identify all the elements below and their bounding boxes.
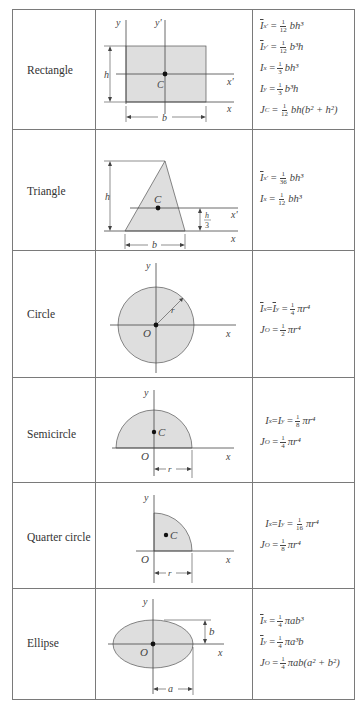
radius-label: r xyxy=(171,305,175,315)
formula: Ix = Iy =116πr⁴ xyxy=(260,514,319,535)
semi-minor-label: b xyxy=(209,625,215,637)
centroid-label: C xyxy=(154,193,162,205)
formula: JO =12πr⁴ xyxy=(260,320,310,341)
formula: Ix =14πab³ xyxy=(260,611,340,632)
formula: Iy' =112b³h xyxy=(260,37,338,58)
formula: Ix = Iy =18πr⁴ xyxy=(260,411,315,432)
height-label: h xyxy=(104,69,109,80)
h-third-num: h xyxy=(205,211,209,220)
y-prime-axis-label: y' xyxy=(154,17,162,28)
origin-label: O xyxy=(141,450,149,462)
x-axis-label: x xyxy=(225,554,231,565)
formula: JC =112bh(b² + h²) xyxy=(260,100,338,121)
moments-of-inertia-table: Rectangle y y' h C xyxy=(12,9,355,700)
formula: Iy =13b³h xyxy=(260,79,338,100)
radius-label: r xyxy=(168,568,172,578)
shape-name: Ellipse xyxy=(27,637,59,649)
x-axis-label: x xyxy=(226,103,232,114)
ellipse-diagram: y b O x a xyxy=(96,589,253,700)
y-axis-label: y xyxy=(115,17,121,28)
x-prime-axis-label: x' xyxy=(226,76,234,87)
origin-label: O xyxy=(140,646,148,658)
formula-list: Ix = Iy =18πr⁴ JO =14πr⁴ xyxy=(260,411,315,453)
shape-name: Semicircle xyxy=(27,428,76,440)
formula: JO =14πab(a² + b²) xyxy=(260,653,340,674)
y-axis-label: y xyxy=(145,260,151,271)
semicircle-diagram: y C O x r xyxy=(96,378,253,482)
formula-list: Ix' =136bh³ Ix =112bh³ xyxy=(260,168,303,210)
y-axis-label: y xyxy=(143,387,149,398)
quarter-circle-diagram: y C O x r xyxy=(96,483,253,588)
formula-list: Ix = Iy =116πr⁴ JO =18πr⁴ xyxy=(260,514,319,556)
shape-name: Rectangle xyxy=(27,64,73,76)
formula: Ix =112bh³ xyxy=(260,189,303,210)
formula: JO =18πr⁴ xyxy=(260,535,319,556)
formula: Ix' =136bh³ xyxy=(260,168,303,189)
formula: JO =14πr⁴ xyxy=(260,432,315,453)
y-axis-label: y xyxy=(142,596,148,607)
base-label: b xyxy=(162,112,167,123)
table-row-semicircle: Semicircle y C O x r Ix = Iy =18πr⁴ JO =… xyxy=(13,378,354,482)
centroid-label: C xyxy=(157,79,164,90)
circle-diagram: y r O x xyxy=(96,251,253,377)
triangle-diagram: h C h 3 x' x b xyxy=(96,130,253,250)
semi-major-label: a xyxy=(168,683,173,694)
shape-name: Quarter circle xyxy=(27,531,91,543)
x-axis-label: x xyxy=(225,328,231,339)
formula-list: Ix' =112bh³ Iy' =112b³h Ix =13bh³ Iy =13… xyxy=(260,16,338,121)
table-row-ellipse: Ellipse y b O x a Ix =14πa xyxy=(13,589,354,700)
centroid-label: C xyxy=(170,529,178,541)
radius-label: r xyxy=(168,464,172,474)
shape-name: Triangle xyxy=(27,185,66,197)
rectangle-diagram: y y' h C x' x b xyxy=(96,10,253,129)
formula-list: Ix =14πab³ Iy =14πa³b JO =14πab(a² + b²) xyxy=(260,611,340,674)
table-row-quarter-circle: Quarter circle y C O x r Ix = Iy =116πr⁴… xyxy=(13,483,354,588)
table-row-circle: Circle y r O x Ix = Iy =14πr⁴ JO =12πr⁴ xyxy=(13,251,354,377)
formula: Iy =14πa³b xyxy=(260,632,340,653)
formula-list: Ix = Iy =14πr⁴ JO =12πr⁴ xyxy=(260,299,310,341)
formula: Ix = Iy =14πr⁴ xyxy=(260,299,310,320)
x-axis-label: x xyxy=(225,451,231,462)
height-label: h xyxy=(105,191,110,202)
centroid-label: C xyxy=(158,426,166,438)
table-row-triangle: Triangle h C h 3 xyxy=(13,130,354,250)
table-row-rectangle: Rectangle y y' h C xyxy=(13,10,354,129)
formula: Ix =13bh³ xyxy=(260,58,338,79)
formula: Ix' =112bh³ xyxy=(260,16,338,37)
x-axis-label: x xyxy=(230,233,236,244)
origin-label: O xyxy=(143,327,151,339)
shape-name: Circle xyxy=(27,308,55,320)
origin-label: O xyxy=(141,553,149,565)
base-label: b xyxy=(152,239,157,250)
x-axis-label: x xyxy=(217,647,223,658)
h-third-den: 3 xyxy=(205,221,209,230)
x-prime-axis-label: x' xyxy=(230,209,238,220)
y-axis-label: y xyxy=(143,492,149,503)
